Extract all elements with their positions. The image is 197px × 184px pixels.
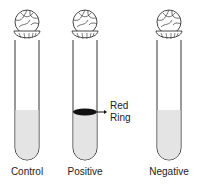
cap-icon [14, 10, 40, 39]
liquid [158, 110, 181, 160]
annotation-line-2: Ring [110, 112, 131, 124]
annotation-line-1: Red [110, 100, 131, 112]
tube-positive [72, 10, 107, 160]
label-negative: Negative [144, 166, 194, 177]
red-ring [73, 109, 97, 116]
label-positive: Positive [60, 166, 110, 177]
liquid [74, 112, 97, 160]
liquid [16, 110, 39, 160]
tube-control [14, 10, 40, 160]
annotation-label: Red Ring [110, 100, 131, 124]
tube-negative [156, 10, 182, 160]
label-control: Control [2, 166, 52, 177]
test-tube-diagram [0, 0, 197, 184]
cap-icon [156, 10, 182, 39]
cap-icon [72, 10, 98, 39]
